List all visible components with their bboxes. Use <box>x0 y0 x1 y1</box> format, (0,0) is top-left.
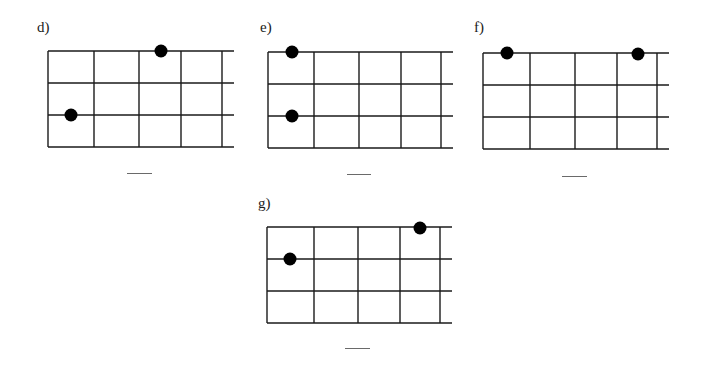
grid-f <box>483 47 669 150</box>
dot-marker <box>632 48 645 61</box>
grid-diagrams <box>0 0 706 369</box>
answer-blank-f[interactable] <box>562 176 587 177</box>
dot-marker <box>286 46 299 59</box>
answer-blank-g[interactable] <box>345 348 370 349</box>
dot-marker <box>501 47 514 60</box>
grid-e <box>268 46 453 149</box>
dot-marker <box>155 45 168 58</box>
answer-blank-e[interactable] <box>347 174 371 175</box>
dot-marker <box>414 222 427 235</box>
dot-marker <box>286 110 299 123</box>
grid-g <box>267 222 452 324</box>
dot-marker <box>284 253 297 266</box>
dot-marker <box>65 109 78 122</box>
grid-d <box>48 45 234 148</box>
answer-blank-d[interactable] <box>127 173 152 174</box>
